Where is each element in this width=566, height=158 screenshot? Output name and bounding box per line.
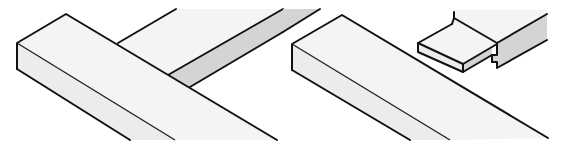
joints-drawing xyxy=(0,0,566,158)
right-joint xyxy=(283,9,548,140)
joint-illustration xyxy=(0,0,566,158)
left-joint xyxy=(17,9,283,140)
